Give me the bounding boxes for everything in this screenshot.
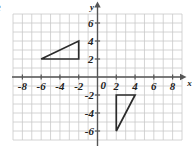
y-tick-label: -4 [85,107,95,119]
y-tick-label: 4 [87,35,94,47]
x-tick-label: -8 [18,80,28,92]
x-tick-label: 2 [113,80,120,92]
x-axis-label: x [186,78,192,88]
coordinate-grid-plot: -8-6-4-22468642-2-4-60xy [0,0,193,146]
y-axis-label: y [89,2,95,12]
x-tick-label: 4 [131,80,138,92]
x-tick-label: -4 [55,80,65,92]
y-tick-label: 2 [87,53,94,65]
origin-label: 0 [101,79,107,91]
x-tick-label: -6 [37,80,47,92]
y-tick-label: 6 [88,17,94,29]
x-tick-label: -2 [74,80,84,92]
y-tick-label: -2 [85,89,95,101]
x-tick-label: 6 [151,80,157,92]
x-tick-label: 8 [170,80,176,92]
coordinate-plane-figure: e -8-6-4-22468642-2-4-60xy [0,0,193,146]
y-tick-label: -6 [85,125,95,137]
tick-labels: -8-6-4-22468642-2-4-60xy [18,2,192,138]
